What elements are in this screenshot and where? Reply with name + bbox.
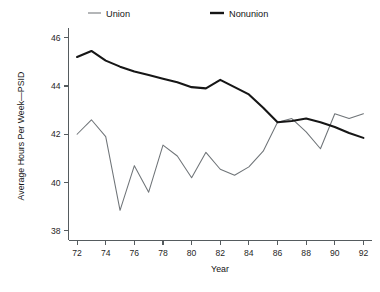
x-tick-label: 84 [244, 248, 254, 258]
chart-figure: Union Nonunion 3840424446 72747678808284… [0, 0, 380, 292]
x-tick-label: 90 [330, 248, 340, 258]
y-tick-label: 40 [51, 178, 61, 188]
y-tick-label: 44 [51, 81, 61, 91]
x-tick-label: 78 [158, 248, 168, 258]
y-tick-label: 46 [51, 33, 61, 43]
legend-label-nonunion: Nonunion [229, 9, 268, 19]
y-tick-label: 42 [51, 129, 61, 139]
line-chart: Union Nonunion 3840424446 72747678808284… [0, 0, 380, 292]
chart-series-group [77, 51, 363, 210]
x-tick-label: 80 [187, 248, 197, 258]
y-tick-label: 38 [51, 226, 61, 236]
x-tick-label: 82 [215, 248, 225, 258]
y-axis-title: Average Hours Per Week—PSID [16, 72, 26, 201]
y-axis-ticks: 3840424446 [51, 33, 69, 236]
x-tick-label: 76 [130, 248, 140, 258]
series-line-nonunion [77, 51, 363, 138]
legend-label-union: Union [106, 9, 130, 19]
x-axis-title: Year [211, 264, 229, 274]
x-tick-label: 72 [72, 248, 82, 258]
x-tick-label: 92 [359, 248, 369, 258]
x-axis-ticks: 7274767880828486889092 [72, 241, 368, 258]
x-tick-label: 88 [301, 248, 311, 258]
series-line-union [77, 114, 363, 211]
x-tick-label: 86 [273, 248, 283, 258]
x-tick-label: 74 [101, 248, 111, 258]
chart-legend: Union Nonunion [88, 9, 268, 19]
